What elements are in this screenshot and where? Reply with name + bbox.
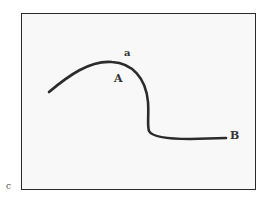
label-point-b: B bbox=[230, 130, 239, 141]
label-small-a: a bbox=[124, 48, 130, 58]
curve-line bbox=[0, 0, 268, 205]
label-panel-c: c bbox=[6, 182, 11, 191]
label-point-a: A bbox=[114, 73, 123, 84]
